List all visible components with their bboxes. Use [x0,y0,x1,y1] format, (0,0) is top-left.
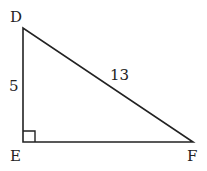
right-angle-marker [23,131,35,142]
triangle-diagram: D E F 5 13 [0,0,207,171]
side-label-de: 5 [9,77,19,95]
vertex-label-f: F [187,147,197,165]
vertex-label-e: E [10,147,21,165]
side-label-df: 13 [110,66,129,84]
vertex-label-d: D [10,8,22,26]
triangle-def [23,28,193,142]
